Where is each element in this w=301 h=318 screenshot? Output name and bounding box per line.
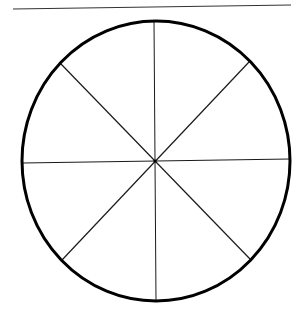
pie-divider-diagram <box>0 0 301 318</box>
top-rule-line <box>13 5 291 9</box>
center-point <box>153 159 156 162</box>
